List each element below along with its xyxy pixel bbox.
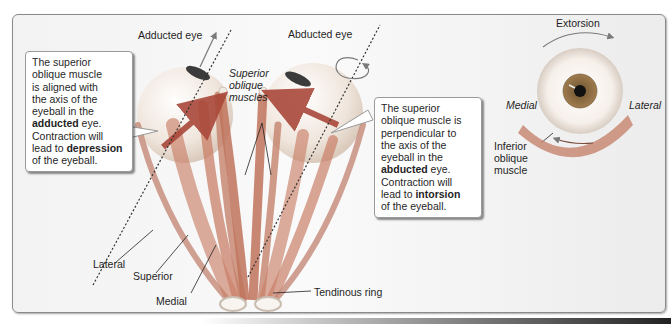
label-rectus-muscles: Rectus muscles	[110, 311, 184, 313]
callout-text: lead to	[32, 142, 66, 154]
label-medial-inset: Medial	[506, 99, 537, 111]
callout-text: Contraction will	[32, 130, 126, 142]
label-superior-rectus: Superior	[133, 270, 173, 282]
callout-text: eye.	[428, 163, 451, 175]
inferior-oblique-direction-arrow	[556, 139, 593, 144]
label-inferior-oblique-1: Inferior	[494, 140, 527, 152]
extorsion-arrow-icon	[543, 33, 611, 47]
callout-text: adducted eye.	[32, 117, 126, 129]
callout-text: perpendicular to	[381, 127, 475, 139]
callout-text: Contraction will	[381, 176, 475, 188]
label-adducted-eye: Adducted eye	[138, 29, 202, 41]
callout-abducted: The superior oblique muscle is perpendic…	[374, 97, 482, 218]
callout-emphasis: intorsion	[415, 188, 460, 200]
callout-text: The superior	[32, 56, 126, 68]
callout-text: lead to intorsion	[381, 188, 475, 200]
bottom-divider-bar	[200, 318, 671, 324]
callout-emphasis: adducted	[32, 117, 79, 129]
label-tendinous-ring: Tendinous ring	[314, 286, 382, 298]
label-inferior-oblique-2: oblique	[494, 152, 528, 164]
label-superior-oblique-3: muscles	[229, 91, 268, 103]
callout-text: of the eyeball.	[381, 200, 475, 212]
callout-text: lead to depression	[32, 142, 126, 154]
label-abducted-eye: Abducted eye	[288, 28, 352, 40]
label-extorsion: Extorsion	[556, 17, 600, 29]
callout-emphasis: depression	[66, 142, 122, 154]
callout-text: The superior	[381, 102, 475, 114]
callout-text: lead to	[381, 188, 415, 200]
callout-text: the axis of the	[381, 139, 475, 151]
callout-emphasis: abducted	[381, 163, 428, 175]
callout-text: eyeball in the	[32, 105, 126, 117]
label-superior-oblique-2: oblique	[229, 79, 263, 91]
label-medial-rectus: Medial	[156, 295, 187, 307]
inset-eye-front-view	[518, 33, 633, 157]
callout-text: eye.	[79, 117, 102, 129]
callout-text: eyeball in the	[381, 151, 475, 163]
label-lateral-inset: Lateral	[629, 99, 661, 111]
rotation-arrow-icon	[336, 58, 369, 79]
callout-text: oblique muscle	[32, 68, 126, 80]
label-lateral-rectus: Lateral	[93, 258, 125, 270]
callout-text: oblique muscle is	[381, 114, 475, 126]
callout-adducted: The superior oblique muscle is aligned w…	[25, 51, 133, 172]
adducted-axis-arrow	[200, 35, 215, 67]
label-inferior-oblique-3: muscle	[494, 164, 527, 176]
callout-text: abducted eye.	[381, 163, 475, 175]
callout-text: the axis of the	[32, 93, 126, 105]
callout-text: is aligned with	[32, 81, 126, 93]
callout-text: of the eyeball.	[32, 154, 126, 166]
diagram-panel: Adducted eye Abducted eye Superior obliq…	[12, 14, 666, 313]
label-superior-oblique-1: Superior	[229, 67, 269, 79]
